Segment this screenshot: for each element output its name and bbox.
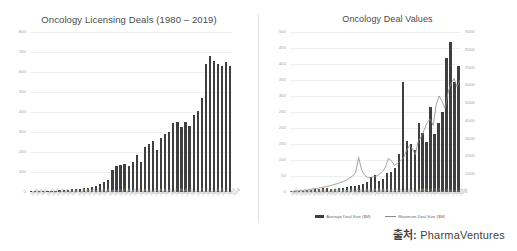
table-row [406,141,408,192]
table-row [209,56,211,192]
right-chart-primary-tick-label: 250 [279,110,286,114]
right-chart-legend: Average Deal Size ($M)Maximum Deal Size … [290,214,470,219]
left-chart-x-tick-label: 2000 [133,194,136,197]
left-chart-x-tick-label: 2012 [196,194,199,197]
right-chart-x-tick-label: 2002 [386,194,389,197]
legend-average-deal-size[interactable]: Average Deal Size ($M) [315,214,371,219]
table-row [217,64,219,192]
left-chart-x-tick-label: 2010 [185,194,188,197]
table-row [184,122,186,192]
left-chart-x-tick-label: 1992 [92,194,95,197]
left-chart-x-tick-label: 2019 [232,194,235,197]
table-row [164,134,166,192]
right-chart-secondary-tick-label: 3000 [465,136,475,140]
right-chart-x-tick-label: 1987 [320,194,323,197]
right-chart-x-tick-label: 2004 [394,194,397,197]
right-chart-x-tick-label: 2009 [416,194,419,197]
left-chart-x-tick-label: 1982 [40,194,43,197]
table-row [144,147,146,192]
left-chart-x-tick-label: 1999 [128,194,131,197]
left-chart-x-tick-label: 2011 [190,194,193,197]
left-chart-x-tick-label: 2004 [154,194,157,197]
right-chart-secondary-y-axis-labels: 0100020003000400050006000700080009000 [463,32,489,192]
table-row [449,42,451,192]
right-chart-x-tick-label: 1981 [294,194,297,197]
left-chart-tick-label: 0 [24,190,26,194]
left-chart-x-tick-label: 2005 [159,194,162,197]
right-chart-primary-tick-label: 300 [279,94,286,98]
right-chart-x-tick-label: 2018 [455,194,458,197]
right-chart-secondary-tick-label: 8000 [465,48,475,52]
left-chart-x-tick-label: 1981 [35,194,38,197]
source-label: 출처: [393,229,417,241]
right-chart-x-tick-label: 2016 [446,194,449,197]
right-chart-plot-area [290,32,460,192]
left-chart-x-tick-label: 2002 [144,194,147,197]
left-chart-tick-label: 700 [19,50,26,54]
table-row [421,133,423,192]
legend-label: Average Deal Size ($M) [326,214,370,219]
left-chart-x-tick-label: 2016 [216,194,219,197]
table-row [188,126,190,192]
table-row [410,144,412,192]
left-chart-tick-label: 300 [19,130,26,134]
right-chart-x-tick-label: 1990 [333,194,336,197]
table-row [433,134,435,192]
left-chart-x-tick-label: 1989 [77,194,80,197]
table-row [201,98,203,192]
left-chart-tick-label: 500 [19,90,26,94]
right-chart-x-tick-label: 1988 [325,194,328,197]
source-name: PharmaVentures [420,229,505,241]
left-chart-tick-label: 400 [19,110,26,114]
right-chart-primary-tick-label: 450 [279,46,286,50]
left-chart-x-tick-label: 1980 [30,194,33,197]
table-row [441,112,443,192]
right-chart-x-tick-label: 2010 [420,194,423,197]
legend-line-swatch-icon [385,216,396,217]
right-chart-x-tick-label: 1985 [312,194,315,197]
left-chart-x-axis-labels: 1980198119821983198419851986198719881989… [30,194,232,198]
right-chart-x-tick-label: 1993 [346,194,349,197]
left-chart-x-tick-label: 2014 [206,194,209,197]
table-row [418,123,420,192]
left-chart-x-tick-label: 1991 [87,194,90,197]
right-chart-x-tick-label: 1980 [290,194,293,197]
left-chart-x-tick-label: 2003 [149,194,152,197]
left-chart-x-tick-label: 1990 [82,194,85,197]
right-chart-x-tick-label: 1996 [360,194,363,197]
right-chart-primary-y-axis-labels: 050100150200250300350400450500 [262,32,288,192]
right-chart-x-tick-label: 2019 [459,194,462,197]
left-chart-tick-label: 200 [19,150,26,154]
right-chart-x-tick-label: 1998 [368,194,371,197]
right-chart-primary-tick-label: 350 [279,78,286,82]
legend-label: Maximum Deal Size ($M) [398,214,445,219]
right-chart-x-tick-label: 1986 [316,194,319,197]
right-chart-primary-tick-label: 200 [279,126,286,130]
left-chart-y-axis-labels: 0100200300400500600700800 [2,32,28,192]
right-chart-primary-tick-label: 50 [281,174,286,178]
table-row [414,150,416,192]
left-chart-x-tick-label: 1998 [123,194,126,197]
slide-root: Oncology Licensing Deals (1980 – 2019) 0… [0,0,517,251]
right-chart-primary-tick-label: 100 [279,158,286,162]
right-chart-x-tick-label: 1995 [355,194,358,197]
right-chart-primary-tick-label: 150 [279,142,286,146]
left-chart-title: Oncology Licensing Deals (1980 – 2019) [0,14,258,25]
left-chart-x-tick-label: 2001 [139,194,142,197]
right-chart-primary-tick-label: 500 [279,30,286,34]
right-chart-x-tick-label: 2003 [390,194,393,197]
left-chart-x-tick-label: 1995 [108,194,111,197]
left-chart-x-tick-label: 1988 [71,194,74,197]
table-row [457,66,459,192]
table-row [193,115,195,192]
right-chart-x-tick-label: 2015 [442,194,445,197]
left-chart-panel: Oncology Licensing Deals (1980 – 2019) 0… [0,0,258,251]
table-row [402,82,404,192]
table-row [229,66,231,192]
legend-maximum-deal-size[interactable]: Maximum Deal Size ($M) [385,214,446,219]
source-attribution: 출처: PharmaVentures [393,226,505,242]
left-chart-x-tick-label: 1986 [61,194,64,197]
right-chart-x-tick-label: 1999 [373,194,376,197]
right-chart-secondary-tick-label: 2000 [465,154,475,158]
right-chart-x-tick-label: 2011 [425,194,428,197]
